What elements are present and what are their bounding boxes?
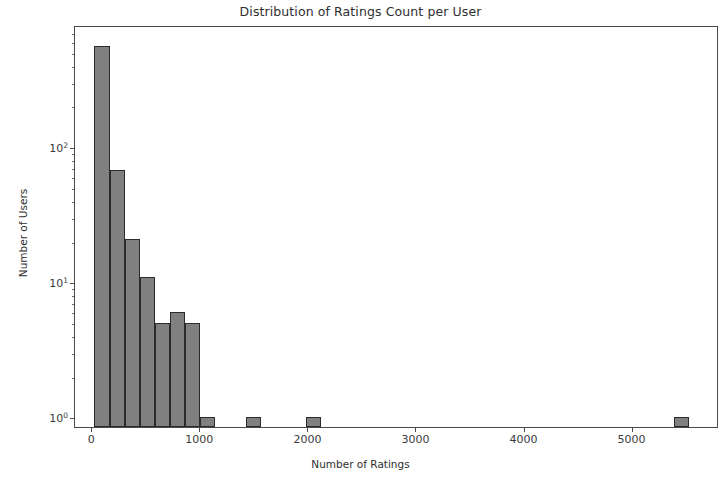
x-tick-label: 2000 xyxy=(293,433,321,446)
chart-title: Distribution of Ratings Count per User xyxy=(0,4,721,19)
x-tick-label: 4000 xyxy=(510,433,538,446)
histogram-bar xyxy=(246,417,261,427)
x-tick-label: 3000 xyxy=(401,433,429,446)
x-axis-tick-labels: 010002000300040005000 xyxy=(0,430,721,450)
x-tick-label: 5000 xyxy=(618,433,646,446)
histogram-bar xyxy=(674,417,689,427)
histogram-bar xyxy=(155,323,170,427)
histogram-bar xyxy=(125,239,140,427)
y-axis-title: Number of Users xyxy=(17,158,29,308)
y-tick-label: 100 xyxy=(4,411,68,426)
y-tick-label: 102 xyxy=(4,141,68,156)
histogram-bar xyxy=(306,417,321,427)
chart-figure: Distribution of Ratings Count per User 1… xyxy=(0,0,721,478)
histogram-bar xyxy=(94,46,109,427)
x-tick-label: 0 xyxy=(88,433,95,446)
plot-area xyxy=(74,26,718,428)
histogram-bar xyxy=(185,323,200,427)
histogram-bar xyxy=(110,170,125,427)
y-axis-tick-labels: 100101102 xyxy=(0,0,68,478)
histogram-bars xyxy=(75,27,717,427)
x-tick-label: 1000 xyxy=(185,433,213,446)
histogram-bar xyxy=(170,312,185,427)
histogram-bar xyxy=(140,277,155,427)
x-axis-title: Number of Ratings xyxy=(0,458,721,470)
histogram-bar xyxy=(200,417,215,427)
y-tick-label: 101 xyxy=(4,276,68,291)
